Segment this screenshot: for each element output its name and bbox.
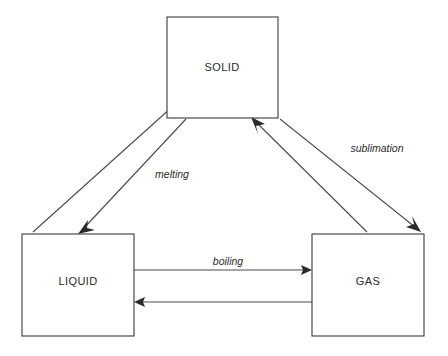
edge-label-melting: melting — [155, 168, 189, 180]
edge-gas-to-solid-arrowhead — [251, 117, 265, 134]
edge-gas-to-liquid — [134, 297, 312, 307]
edge-label-boiling: boiling — [213, 255, 244, 267]
edge-solid-to-gas-arrowhead — [406, 216, 421, 232]
edge-liquid-to-solid-line — [33, 107, 172, 232]
phase-diagram: SOLID LIQUID GAS melting sublimation boi… — [0, 0, 448, 356]
node-label-liquid: LIQUID — [58, 275, 97, 287]
node-layer: SOLID LIQUID GAS — [22, 17, 424, 336]
node-label-solid: SOLID — [204, 61, 239, 73]
edge-gas-to-solid-line — [256, 122, 367, 232]
phase-diagram-svg: SOLID LIQUID GAS melting sublimation boi… — [0, 0, 448, 356]
edge-solid-to-liquid-arrowhead — [78, 220, 95, 234]
node-label-gas: GAS — [356, 275, 380, 287]
edge-label-sublimation: sublimation — [350, 142, 403, 154]
edge-solid-to-gas-line — [280, 119, 415, 227]
